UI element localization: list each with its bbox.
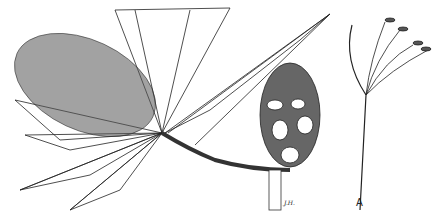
artist-signature: J.H. xyxy=(284,199,295,206)
detail-label: A xyxy=(356,197,363,208)
botanical-illustration xyxy=(0,0,445,217)
flower-detail-a xyxy=(349,18,431,210)
seed-cone xyxy=(260,63,320,167)
stem-base xyxy=(269,170,281,210)
